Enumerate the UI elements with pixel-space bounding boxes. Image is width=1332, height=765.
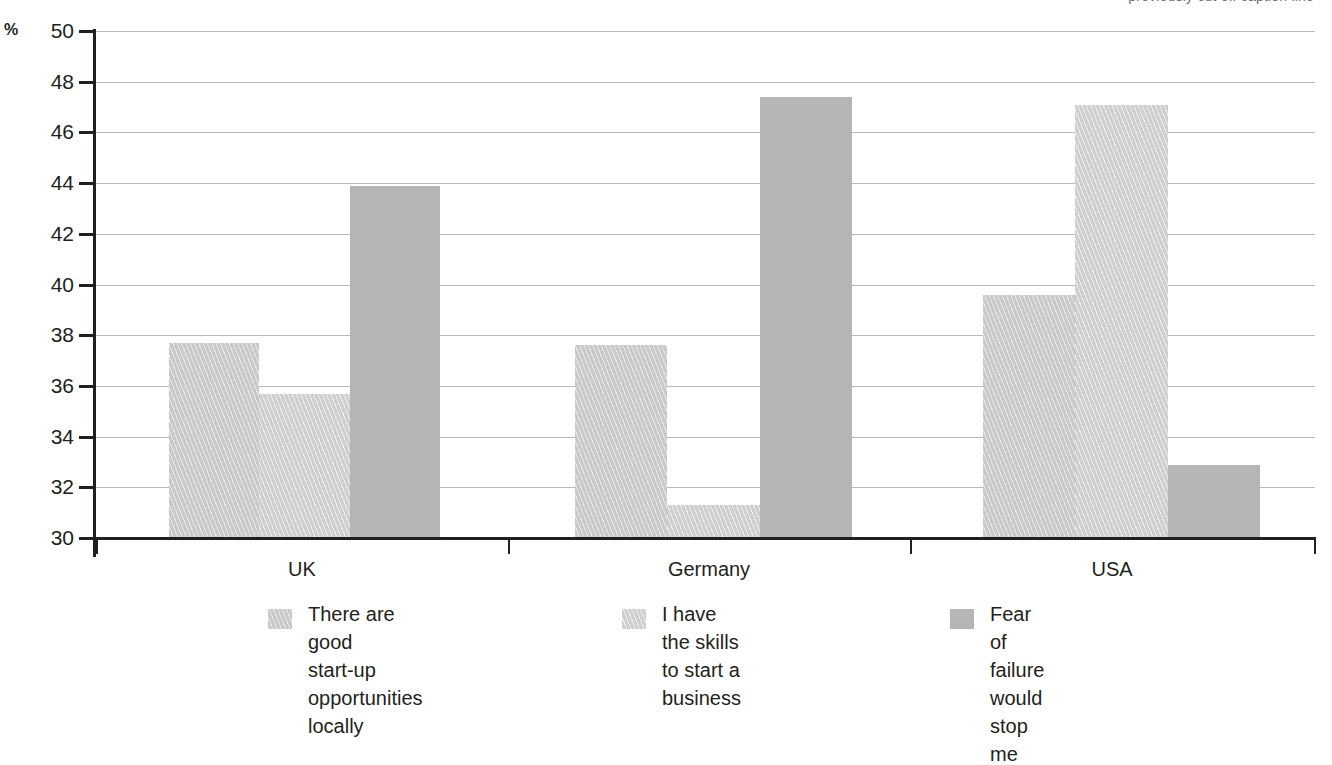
y-tick-label: 46 bbox=[28, 120, 74, 144]
x-category-label: Germany bbox=[668, 558, 750, 581]
legend-swatch-icon bbox=[950, 609, 974, 629]
bar bbox=[350, 186, 440, 538]
x-tick-mark bbox=[1314, 537, 1316, 554]
y-tick-label: 40 bbox=[28, 273, 74, 297]
x-category-label: USA bbox=[1091, 558, 1132, 581]
x-tick-mark bbox=[910, 537, 912, 554]
bar bbox=[575, 345, 667, 538]
x-axis-line bbox=[96, 537, 1315, 540]
x-tick-mark bbox=[508, 537, 510, 554]
y-tick-label: 48 bbox=[28, 70, 74, 94]
y-tick-label: 30 bbox=[28, 526, 74, 550]
legend-swatch-icon bbox=[268, 609, 292, 629]
y-tick-label: 36 bbox=[28, 374, 74, 398]
bar bbox=[259, 394, 349, 538]
x-category-label: UK bbox=[288, 558, 316, 581]
bar bbox=[760, 97, 852, 538]
bar bbox=[169, 343, 259, 538]
plot-bars bbox=[96, 31, 1315, 538]
y-tick-label: 32 bbox=[28, 475, 74, 499]
y-tick-label: 38 bbox=[28, 323, 74, 347]
bar bbox=[667, 505, 759, 538]
x-tick-mark bbox=[96, 537, 98, 554]
y-tick-label: 42 bbox=[28, 222, 74, 246]
bar bbox=[1168, 465, 1260, 539]
legend-swatch-icon bbox=[622, 609, 646, 629]
legend-label: Fear of failure would stop me bbox=[990, 600, 1044, 765]
legend-label: There are good start-up opportunities lo… bbox=[308, 600, 423, 740]
chart-legend: There are good start-up opportunities lo… bbox=[0, 600, 1332, 704]
y-tick-label: 34 bbox=[28, 425, 74, 449]
y-tick-label: 50 bbox=[28, 19, 74, 43]
bar bbox=[1075, 105, 1167, 538]
bar bbox=[983, 295, 1075, 538]
legend-label: I have the skills to start a business bbox=[662, 600, 741, 712]
y-tick-label: 44 bbox=[28, 171, 74, 195]
y-axis-tick-labels: 3032343638404244464850 bbox=[0, 0, 74, 538]
